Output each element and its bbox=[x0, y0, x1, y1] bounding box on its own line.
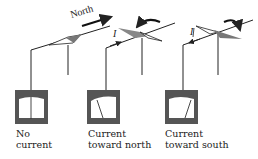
caption-line1: Current bbox=[88, 129, 151, 140]
galvanometer-icon bbox=[87, 90, 120, 124]
rotation-arrow-icon bbox=[137, 20, 160, 27]
compass-needle-icon bbox=[49, 34, 82, 45]
current-label-panel2: I bbox=[113, 28, 116, 39]
caption-line2: current bbox=[16, 140, 52, 151]
current-label-panel3: I bbox=[190, 26, 193, 37]
caption-line1: No bbox=[16, 129, 52, 140]
current-arrow-icon bbox=[189, 39, 200, 43]
galvanometer-icon bbox=[165, 90, 198, 124]
caption-panel1: No current bbox=[16, 129, 52, 150]
panel-current-north bbox=[87, 20, 175, 124]
current-arrow-icon bbox=[110, 42, 121, 46]
rotation-arrow-icon bbox=[224, 20, 240, 30]
caption-panel3: Current toward south bbox=[165, 129, 229, 150]
north-arrow-icon bbox=[82, 17, 111, 26]
compass-needle-icon bbox=[196, 26, 242, 39]
caption-line1: Current bbox=[165, 129, 229, 140]
caption-line2: toward north bbox=[88, 140, 151, 151]
caption-line2: toward south bbox=[165, 140, 229, 151]
panel-current-south bbox=[165, 20, 253, 124]
caption-panel2: Current toward north bbox=[88, 129, 151, 150]
wire bbox=[31, 26, 110, 92]
galvanometer-icon bbox=[15, 90, 48, 124]
